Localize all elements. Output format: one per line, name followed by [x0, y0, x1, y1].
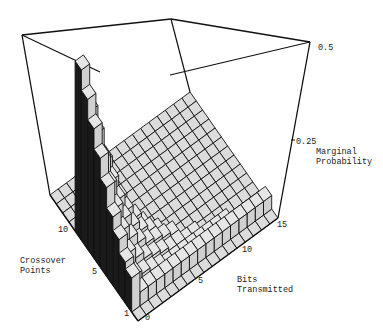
x-tick-10: 10 [242, 245, 252, 255]
x-axis-label: Bits Transmitted [237, 275, 293, 295]
box-edge-back-vertical [171, 19, 190, 92]
bar [125, 263, 139, 312]
bar-side-face [75, 61, 81, 240]
bar-side-face [94, 149, 100, 267]
box-edge-right [278, 42, 310, 218]
y-tick-5: 5 [92, 267, 97, 277]
z-tick-0.5: 0.5 [318, 43, 333, 53]
z-tick-0.25: 0.25 [296, 137, 316, 147]
x-tick-15: 15 [277, 220, 287, 230]
z-axis-label: Marginal Probability [316, 147, 372, 167]
bar-side-face [113, 231, 119, 294]
y-axis-label: Crossover Points [20, 256, 66, 276]
box-edge-top-back-left [22, 19, 171, 35]
bar-side-face [88, 120, 94, 258]
y-tick-1: 1 [124, 309, 129, 319]
bar-side-face [81, 90, 87, 249]
box-edge-left [22, 35, 50, 195]
bar-front-face [132, 272, 140, 312]
box-edge-top-front-right [170, 42, 310, 75]
x-tick-5: 5 [198, 276, 203, 286]
bar-side-face [100, 179, 106, 276]
y-tick-10: 10 [58, 225, 68, 235]
bar-side-face [107, 208, 113, 285]
x-tick-0: 0 [145, 313, 150, 323]
box-edge-top-back-right [171, 19, 310, 42]
